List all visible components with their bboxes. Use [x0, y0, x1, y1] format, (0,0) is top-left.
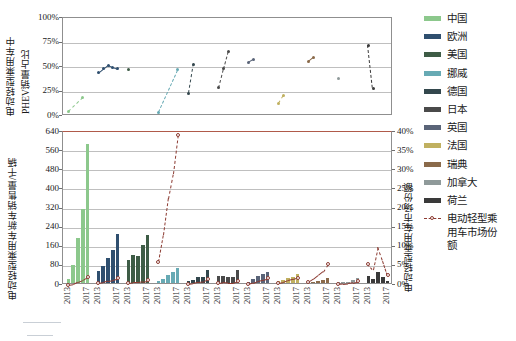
bottom-right-y-tick: 35%: [397, 146, 427, 155]
x-tick-label: 2013: [213, 287, 222, 304]
legend-label: 荷兰: [447, 194, 467, 207]
bar: [71, 265, 75, 283]
legend-label: 英国: [447, 121, 467, 134]
legend-item-5[interactable]: 日本: [424, 103, 516, 117]
bottom-left-axis-label: 电动轻型乘用车新车销售量/千辆: [8, 128, 18, 300]
bottom-right-y-tick: 5%: [397, 260, 427, 269]
x-tick-label: 2017: [82, 287, 91, 304]
bottom-left-y-tick: 240: [26, 222, 59, 231]
market-share-point: [206, 277, 210, 281]
legend-item-8[interactable]: 瑞典: [424, 158, 516, 172]
market-share-point: [266, 276, 270, 280]
bar: [367, 276, 371, 283]
bottom-right-y-tickmark: [392, 169, 395, 170]
bar: [381, 277, 385, 283]
legend-swatch-icon: [424, 107, 441, 112]
top-series-point: [372, 87, 375, 90]
bar: [81, 209, 85, 283]
x-tick-label: 2017: [232, 287, 241, 304]
top-series-point: [67, 110, 70, 113]
market-share-point: [156, 260, 160, 264]
market-share-segment: [313, 275, 318, 280]
legend-swatch-icon: [424, 143, 441, 148]
legend-label: 电动轻型乘用车市场份额: [447, 212, 499, 253]
legend-item-6[interactable]: 英国: [424, 121, 516, 135]
market-share-point: [66, 283, 70, 287]
bar: [127, 260, 131, 283]
market-share-point: [296, 276, 300, 280]
bottom-right-y-tickmark: [392, 188, 395, 189]
x-tick-label: 2013: [243, 287, 252, 304]
bar: [376, 272, 380, 283]
top-y-tick: 50%: [26, 62, 59, 71]
legend-item-0[interactable]: 中国: [424, 12, 516, 26]
bar: [111, 250, 115, 283]
x-tick-label: 2013: [303, 287, 312, 304]
top-y-tick: 75%: [26, 37, 59, 46]
top-series-point: [337, 77, 340, 80]
scan-artifact-line-1: [23, 322, 61, 323]
market-share-point: [216, 281, 220, 285]
legend-label: 加拿大: [447, 176, 477, 189]
bottom-right-y-tickmark: [392, 150, 395, 151]
bar: [166, 275, 170, 283]
bottom-right-y-tickmark: [392, 131, 395, 132]
bottom-gridline: [63, 209, 391, 210]
legend-item-11[interactable]: 电动轻型乘用车市场份额: [424, 212, 516, 253]
top-y-tick: 100%: [26, 13, 59, 22]
legend: 中国欧洲美国挪威德国日本英国法国瑞典加拿大荷兰电动轻型乘用车市场份额: [424, 12, 516, 257]
legend-label: 美国: [447, 48, 467, 61]
bar: [76, 238, 80, 283]
market-share-point: [326, 262, 330, 266]
market-share-segment: [163, 199, 169, 235]
bottom-right-y-tick: 20%: [397, 203, 427, 212]
legend-swatch-icon: [424, 180, 441, 185]
bottom-plot-area: [62, 131, 392, 284]
x-tick-label: 2013: [333, 287, 342, 304]
x-tick-label: 2017: [292, 287, 301, 304]
legend-dashline-marker-icon: [424, 215, 441, 222]
bar: [146, 235, 150, 283]
top-series-point: [252, 58, 255, 61]
top-series-segment: [188, 64, 194, 94]
bottom-right-y-tick: 40%: [397, 127, 427, 136]
top-series-point: [312, 56, 315, 59]
top-series-point: [227, 50, 230, 53]
legend-item-3[interactable]: 挪威: [424, 67, 516, 81]
legend-item-2[interactable]: 美国: [424, 48, 516, 62]
bar: [316, 281, 320, 283]
bottom-gridline: [63, 228, 391, 229]
legend-item-1[interactable]: 欧洲: [424, 30, 516, 44]
legend-item-4[interactable]: 德国: [424, 85, 516, 99]
x-tick-label: 2013: [153, 287, 162, 304]
bottom-right-y-tickmark: [392, 246, 395, 247]
legend-label: 日本: [447, 103, 467, 116]
top-series-point: [176, 68, 179, 71]
market-share-point: [386, 273, 390, 277]
top-series-point: [81, 96, 84, 99]
market-share-point: [306, 280, 310, 284]
legend-item-9[interactable]: 加拿大: [424, 176, 516, 190]
x-tick-label: 2013: [183, 287, 192, 304]
legend-label: 德国: [447, 85, 467, 98]
legend-label: 瑞典: [447, 158, 467, 171]
market-share-point: [236, 279, 240, 283]
market-share-point: [96, 281, 100, 285]
top-series-point: [111, 66, 114, 69]
bar: [141, 245, 145, 283]
legend-item-10[interactable]: 荷兰: [424, 194, 516, 208]
market-share-segment: [158, 235, 164, 262]
top-series-point: [107, 64, 110, 67]
bottom-right-y-tick: 15%: [397, 222, 427, 231]
chart-figure: 电动轻型乘用车中 PHEV销量占比 100%75%50%25%0% 电动轻型乘用…: [0, 0, 516, 341]
x-tick-label: 2017: [322, 287, 331, 304]
bottom-right-y-tickmark: [392, 227, 395, 228]
top-plot-area: [62, 17, 392, 115]
bottom-right-y-tick: 10%: [397, 241, 427, 250]
top-series-point: [277, 102, 280, 105]
top-series-point: [192, 63, 195, 66]
legend-item-7[interactable]: 法国: [424, 139, 516, 153]
top-gridline: [63, 43, 391, 44]
bottom-left-y-tick: 320: [26, 203, 59, 212]
bottom-right-y-tick: 0%: [397, 280, 427, 289]
